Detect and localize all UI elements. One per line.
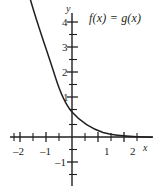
y-tick-label-neg1: –1	[55, 157, 66, 168]
x-tick-label-neg2: –2	[13, 146, 24, 157]
y-tick-label-1: 1	[63, 92, 69, 103]
y-tick-label-3: 3	[62, 42, 68, 53]
y-axis-label: y	[66, 3, 70, 14]
y-tick-label-2: 2	[62, 67, 68, 78]
graph-canvas	[0, 0, 157, 189]
function-equation-label: f(x) = g(x)	[89, 13, 141, 24]
y-tick-label-4: 4	[62, 17, 68, 28]
x-tick-label-1: 1	[104, 146, 110, 157]
x-tick-label-2: 2	[130, 146, 136, 157]
y-axis-minor-ticks	[69, 35, 77, 175]
x-axis-label: x	[143, 142, 147, 153]
x-tick-label-neg1: –1	[40, 146, 51, 157]
